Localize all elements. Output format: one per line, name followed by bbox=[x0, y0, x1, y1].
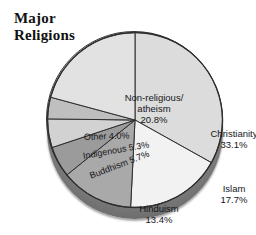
pie-chart: Christianity 33.1% Islam 17.7% Hinduism … bbox=[46, 31, 224, 221]
pie-slice-group bbox=[48, 33, 223, 208]
slice-label-other: Other 4.0% bbox=[84, 130, 130, 142]
pie-chart-figure: Major Religions Christianity 33.1% Islam… bbox=[0, 0, 256, 235]
pie-slices-svg bbox=[46, 31, 224, 209]
pie-slices-layer bbox=[46, 31, 224, 209]
